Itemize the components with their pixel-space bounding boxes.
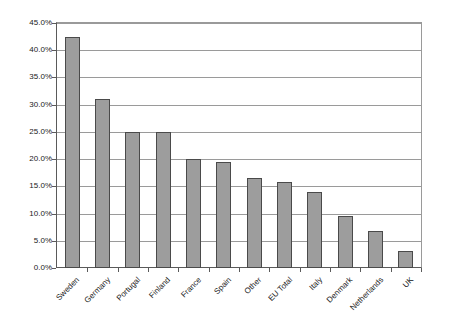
bars-group [57,23,421,268]
y-tick-label: 0.0% [6,264,52,272]
bar [277,182,292,268]
y-tick-label: 20.0% [6,155,52,163]
bar [247,178,262,268]
bar [186,159,201,268]
x-tick-label: Netherlands [293,275,384,327]
bar [216,162,231,268]
y-tick-label: 35.0% [6,73,52,81]
x-tick-mark [148,268,149,272]
x-tick-mark [178,268,179,272]
x-tick-label: Italy [233,275,324,327]
bar [125,132,140,268]
bar [307,192,322,268]
x-tick-label: EU Total [202,275,293,327]
x-tick-label: Spain [142,275,233,327]
x-tick-label: France [111,275,202,327]
bar [65,37,80,268]
y-tick-label: 30.0% [6,101,52,109]
x-tick-label: Portugal [51,275,142,327]
bar-chart: 0.0%5.0%10.0%15.0%20.0%25.0%30.0%35.0%40… [0,0,458,327]
bar [156,132,171,268]
x-tick-mark [209,268,210,272]
bar [368,231,383,268]
y-axis: 0.0%5.0%10.0%15.0%20.0%25.0%30.0%35.0%40… [0,0,52,327]
x-tick-mark [300,268,301,272]
y-tick-label: 45.0% [6,19,52,27]
x-tick-mark [87,268,88,272]
y-tick-label: 5.0% [6,237,52,245]
bar [95,99,110,268]
y-tick-label: 25.0% [6,128,52,136]
x-tick-mark [269,268,270,272]
y-tick-label: 40.0% [6,46,52,54]
x-tick-mark [391,268,392,272]
y-tick-label: 10.0% [6,210,52,218]
x-axis [57,268,421,273]
y-tick-mark [52,268,56,269]
x-tick-mark [421,268,422,272]
bar [398,251,413,268]
x-tick-label: UK [324,275,415,327]
x-tick-mark [239,268,240,272]
x-tick-label: Denmark [263,275,354,327]
x-tick-mark [360,268,361,272]
x-tick-mark [330,268,331,272]
x-tick-label: Other [172,275,263,327]
y-tick-label: 15.0% [6,182,52,190]
bar [338,216,353,268]
x-tick-label: Finland [81,275,172,327]
x-tick-mark [118,268,119,272]
